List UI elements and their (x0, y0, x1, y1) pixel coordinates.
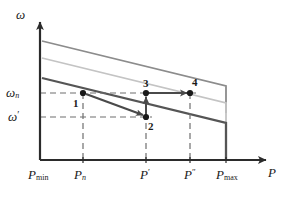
point-label-2: 2 (148, 121, 154, 132)
point-label-4: 4 (192, 77, 198, 88)
omega-n-main: ω (6, 85, 15, 100)
p-max-sub: max (224, 173, 238, 182)
axes-group (40, 22, 266, 160)
marker-point-4 (187, 90, 193, 96)
droop-line-lower (42, 78, 226, 160)
p-min-sub: min (36, 173, 48, 182)
p-double-prime-main: P (184, 167, 192, 182)
omega-n-sub: n (15, 91, 19, 100)
droop-line-upper (42, 41, 226, 113)
point-label-3: 3 (143, 78, 149, 89)
operating-points-group (80, 90, 193, 120)
marker-point-3 (143, 90, 149, 96)
x-tick-label-p-max: Pmax (216, 168, 238, 182)
droop-lines-group (42, 41, 226, 160)
x-tick-label-p-min: Pmin (28, 168, 48, 182)
transition-arrows-group (86, 93, 187, 116)
y-tick-label-omega-n: ωn (6, 86, 19, 100)
x-tick-label-p-double-prime: P″ (184, 168, 196, 181)
omega-prime-main: ω (8, 109, 17, 124)
p-prime-sup: ′ (148, 167, 150, 177)
x-axis-label: P (268, 166, 276, 179)
p-n-sub: n (82, 173, 86, 182)
p-min-main: P (28, 167, 36, 182)
vertical-guide-lines (83, 93, 190, 160)
marker-point-1 (80, 90, 86, 96)
y-tick-label-omega-prime: ω′ (8, 110, 19, 123)
droop-characteristic-figure: ω P ωn ω′ Pmin Pn P′ P″ Pmax 1 2 3 4 (0, 0, 286, 199)
point-label-1: 1 (73, 98, 79, 109)
p-double-prime-sup: ″ (192, 167, 196, 177)
p-prime-main: P (140, 167, 148, 182)
y-axis-label: ω (16, 8, 25, 21)
p-max-main: P (216, 167, 224, 182)
p-n-main: P (74, 167, 82, 182)
arrow-1-to-2 (86, 94, 143, 115)
x-tick-label-p-prime: P′ (140, 168, 150, 181)
x-tick-label-p-n: Pn (74, 168, 86, 182)
omega-prime-sup: ′ (17, 109, 19, 120)
